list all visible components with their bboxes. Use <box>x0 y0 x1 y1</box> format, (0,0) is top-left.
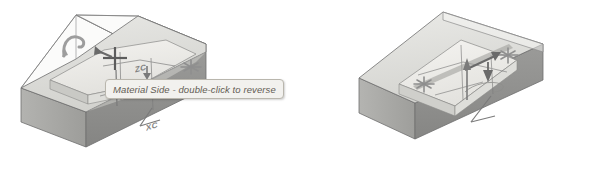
reversed-material-side-figure[interactable]: ZC XC <box>295 0 590 182</box>
material-side-tooltip[interactable]: Material Side - double-click to reverse <box>105 79 284 99</box>
material-side-figure[interactable]: ZC XC Material Side - double-click to re… <box>0 0 295 182</box>
tooltip-text: Material Side - double-click to reverse <box>113 84 276 95</box>
right-block-drawing <box>295 0 590 182</box>
diagram-canvas: ZC XC Material Side - double-click to re… <box>0 0 590 182</box>
